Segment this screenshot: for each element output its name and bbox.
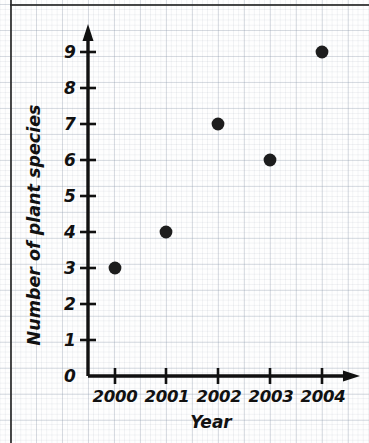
x-axis-arrowhead [343,371,360,382]
y-tick-label-6: 6 [64,150,76,170]
axes-group [83,24,361,382]
y-tick-label-7: 7 [64,114,76,134]
chart-page: 0 1 2 3 4 5 6 7 8 9 2000 2001 2002 2003 … [0,0,369,443]
x-tick-label-2002: 2002 [196,387,241,406]
data-point [109,262,122,275]
y-axis-tick-labels: 0 1 2 3 4 5 6 7 8 9 [63,42,76,386]
x-tick-label-2003: 2003 [248,387,293,406]
y-tick-label-2: 2 [64,294,76,314]
y-tick-label-5: 5 [64,186,76,206]
x-tick-label-2000: 2000 [92,387,137,406]
data-point [160,226,173,239]
scatter-plot: 0 1 2 3 4 5 6 7 8 9 2000 2001 2002 2003 … [0,0,369,443]
data-point [316,46,329,59]
x-tick-label-2004: 2004 [300,387,345,406]
y-tick-label-0: 0 [64,366,76,386]
x-axis-tick-labels: 2000 2001 2002 2003 2004 [92,387,345,406]
y-tick-label-1: 1 [64,330,76,350]
y-tick-label-3: 3 [64,258,76,278]
data-point [264,154,277,167]
y-tick-label-9: 9 [64,42,76,62]
y-tick-label-8: 8 [64,78,76,98]
y-tick-label-4: 4 [63,222,76,242]
data-point [212,118,225,131]
x-axis-title: Year [190,412,233,432]
data-points-group [109,46,329,275]
y-axis-arrowhead [83,24,94,41]
x-tick-label-2001: 2001 [144,387,189,406]
y-axis-title: Number of plant species [24,105,44,346]
